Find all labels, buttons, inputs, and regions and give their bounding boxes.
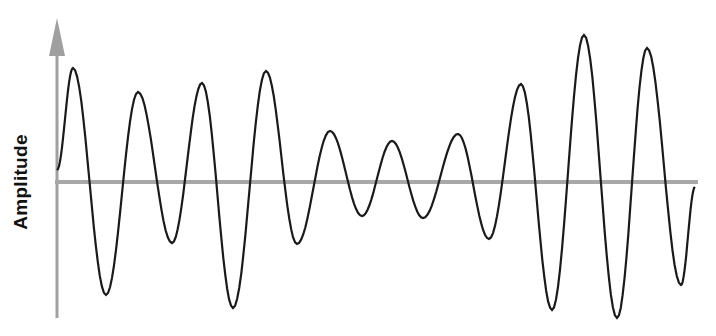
- y-axis-label: Amplitude: [10, 134, 32, 230]
- waveform-line: [57, 35, 695, 318]
- waveform-svg: [0, 0, 716, 336]
- waveform-diagram: Amplitude: [0, 0, 716, 336]
- y-axis-arrow-icon: [49, 18, 65, 56]
